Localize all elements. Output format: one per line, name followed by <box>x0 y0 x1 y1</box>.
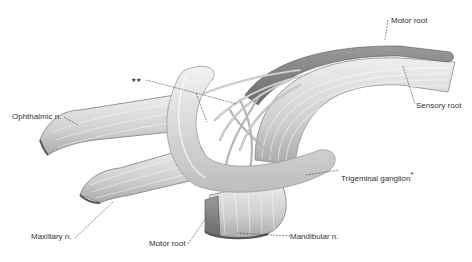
label-double-star: ★★ <box>131 75 141 85</box>
label-sensory-root: Sensory root <box>416 101 461 111</box>
trigeminal-nerve-illustration <box>0 0 472 262</box>
label-trigeminal-ganglion: Trigeminal ganglion* <box>341 170 414 184</box>
label-maxillary-nerve: Maxillary n. <box>31 232 71 242</box>
label-ophthalmic-nerve: Ophthalmic n. <box>12 112 61 122</box>
ganglion-star: * <box>411 170 414 179</box>
label-motor-root-bottom: Motor root <box>149 239 185 249</box>
label-mandibular-nerve: Mandibular n. <box>290 232 338 242</box>
motor-root-bottom-shape <box>205 196 220 236</box>
trigeminal-ganglion-text: Trigeminal ganglion <box>341 174 411 183</box>
label-motor-root-top: Motor root <box>391 16 427 26</box>
